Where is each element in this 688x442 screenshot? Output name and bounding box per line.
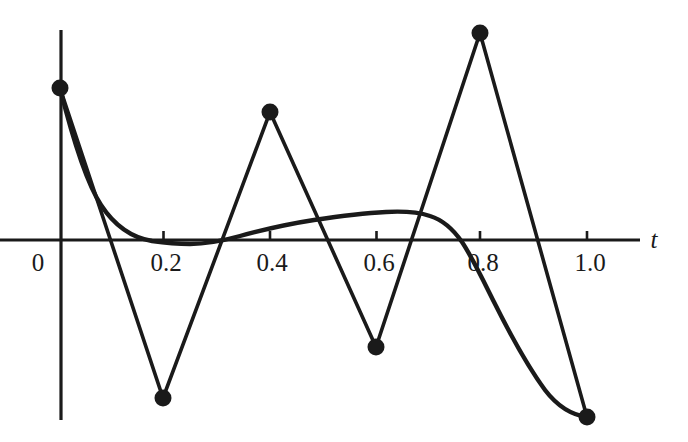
plot-area: 0 0.2 0.4 0.6 0.8 1.0 t	[0, 0, 688, 442]
data-point-t1.0	[579, 409, 596, 426]
data-point-t0.2	[155, 390, 172, 407]
piecewise-linear-interpolant	[60, 33, 587, 417]
tick-label-1.0: 1.0	[574, 249, 605, 276]
tick-label-0.6: 0.6	[363, 249, 394, 276]
tick-label-0.4: 0.4	[256, 249, 288, 276]
data-point-t0	[52, 80, 69, 97]
data-point-t0.4	[262, 104, 279, 121]
tick-label-0.8: 0.8	[467, 249, 498, 276]
data-point-markers	[52, 25, 596, 426]
data-point-t0.8	[472, 25, 489, 42]
tick-label-0.2: 0.2	[150, 249, 181, 276]
tick-label-0: 0	[32, 249, 45, 276]
data-point-t0.6	[368, 339, 385, 356]
chart-figure: 0 0.2 0.4 0.6 0.8 1.0 t	[0, 0, 688, 442]
x-axis-label: t	[651, 226, 659, 253]
